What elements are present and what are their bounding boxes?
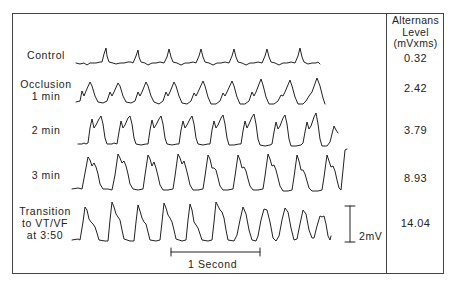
trace-3min	[72, 149, 347, 191]
trace-2min	[78, 113, 338, 146]
ecg-traces	[0, 0, 455, 284]
trace-occlusion-1min	[76, 78, 325, 104]
voltage-scale-label: 2mV	[359, 230, 382, 242]
scale-bar-voltage	[345, 206, 355, 242]
trace-control	[76, 48, 320, 65]
trace-transition	[72, 202, 331, 241]
time-scale-label: 1 Second	[188, 258, 237, 270]
scale-bar-time	[171, 248, 260, 256]
